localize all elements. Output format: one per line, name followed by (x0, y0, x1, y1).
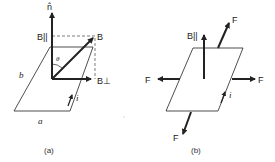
current-label-a: i (76, 93, 79, 103)
panel-b-caption: (b) (191, 146, 201, 155)
force-right-label: F (258, 75, 264, 85)
current-arrow-a (68, 95, 72, 106)
b-field-label: B (97, 32, 103, 42)
force-bottom-arrow (183, 112, 191, 134)
panel-a-caption: (a) (44, 146, 54, 155)
panel-a: n̂ B|| B B⊥ θ b a i (a) (14, 2, 111, 155)
b-perp-label: B⊥ (97, 76, 111, 86)
current-arrow-b (221, 92, 225, 103)
normal-vector-label: n̂ (47, 2, 52, 12)
side-a-label: a (38, 116, 43, 126)
current-label-b: i (229, 90, 232, 100)
b-parallel-label-b: B|| (187, 31, 198, 41)
theta-angle-arc (52, 64, 62, 68)
side-b-label: b (19, 70, 24, 80)
diagram-canvas: n̂ B|| B B⊥ θ b a i (a) B|| F F F F i (b… (0, 0, 275, 162)
panel-b: B|| F F F F i (b) (145, 15, 264, 155)
force-top-label: F (232, 15, 238, 25)
theta-label: θ (56, 55, 60, 63)
force-top-arrow (218, 23, 229, 48)
b-parallel-label: B|| (37, 32, 48, 42)
force-bottom-label: F (173, 133, 179, 143)
scan-dot (124, 117, 125, 118)
force-left-label: F (145, 75, 151, 85)
